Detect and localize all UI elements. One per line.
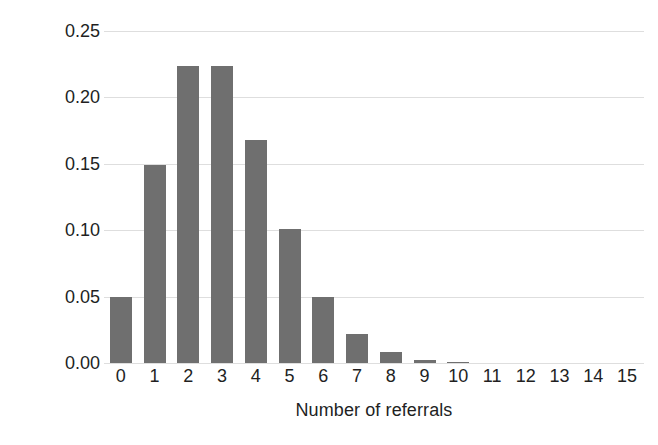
plot-area: [104, 31, 644, 363]
gridline: [104, 363, 644, 364]
x-tick-label: 15: [607, 366, 647, 387]
y-tick-label: 0.25: [36, 21, 100, 42]
x-axis-tick-labels: 0123456789101112131415: [104, 366, 644, 392]
bar: [245, 140, 267, 363]
bar: [144, 165, 166, 363]
probability-bar-chart: Probability 0.000.050.100.150.200.25 012…: [0, 0, 658, 445]
x-axis-title-text: Number of referrals: [296, 400, 453, 420]
bar: [447, 362, 469, 363]
bar: [211, 66, 233, 363]
bar: [346, 334, 368, 363]
bar: [177, 66, 199, 363]
y-axis-title: Probability: [0, 0, 34, 445]
bar: [380, 352, 402, 363]
y-tick-label: 0.15: [36, 153, 100, 174]
bar: [414, 360, 436, 363]
x-axis-title: Number of referrals: [104, 400, 644, 421]
bar: [110, 297, 132, 363]
bar: [312, 297, 334, 363]
bar-series: [104, 31, 644, 363]
y-tick-label: 0.20: [36, 87, 100, 108]
y-axis-tick-labels: 0.000.050.100.150.200.25: [36, 0, 100, 445]
y-tick-label: 0.10: [36, 220, 100, 241]
y-tick-label: 0.00: [36, 353, 100, 374]
bar: [279, 229, 301, 363]
y-tick-label: 0.05: [36, 286, 100, 307]
